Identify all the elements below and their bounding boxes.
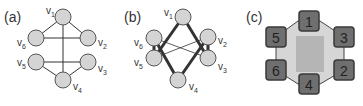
graph-panel-b: v1v2v3v4v5v6: [134, 7, 227, 94]
square-label-6: 6: [272, 63, 280, 79]
vertex-v1: [55, 9, 71, 25]
vertex-v2: [80, 30, 96, 46]
vertex-label-v3: v3: [98, 63, 107, 76]
graph-nodes: v1v2v3v4v5v6: [17, 5, 107, 94]
vertex-label-v1: v1: [46, 5, 55, 18]
graph-edges: [36, 17, 88, 80]
panel-label-a: (a): [4, 9, 21, 25]
vertex-label-v4: v4: [189, 81, 198, 94]
vertex-v6: [28, 30, 44, 46]
vertex-label-v2: v2: [218, 35, 227, 48]
panel-label-b: (b): [124, 9, 141, 25]
octagon-panel-c: 132465: [266, 11, 354, 94]
diagram-canvas: (a) (b) (c) v1v2v3v4v5v6 v1v2v3v4v5v6 13…: [0, 0, 363, 106]
vertex-label-v1: v1: [164, 7, 173, 20]
vertex-v5: [28, 54, 44, 70]
vertex-v4: [170, 72, 186, 88]
panel-label-c: (c): [246, 9, 262, 25]
vertex-label-v5: v5: [134, 57, 143, 70]
vertex-label-v2: v2: [98, 37, 107, 50]
graph-nodes: v1v2v3v4v5v6: [134, 7, 227, 94]
vertex-label-v4: v4: [73, 81, 82, 94]
vertex-label-v3: v3: [218, 61, 227, 74]
vertex-v6: [146, 30, 162, 46]
vertex-label-v5: v5: [17, 57, 26, 70]
square-label-4: 4: [305, 77, 313, 93]
vertex-v5: [146, 50, 162, 66]
vertex-v3: [80, 54, 96, 70]
square-label-3: 3: [340, 30, 348, 46]
square-label-2: 2: [340, 63, 348, 79]
vertex-v4: [55, 72, 71, 88]
square-label-5: 5: [272, 30, 280, 46]
vertex-label-v6: v6: [134, 37, 143, 50]
center-square: [296, 36, 324, 72]
vertex-label-v6: v6: [17, 37, 26, 50]
graph-panel-a: v1v2v3v4v5v6: [17, 5, 107, 94]
vertex-v3: [200, 50, 216, 66]
graph-edges: [154, 17, 208, 80]
square-label-1: 1: [305, 14, 313, 30]
vertex-v2: [200, 29, 216, 45]
vertex-v1: [175, 9, 191, 25]
